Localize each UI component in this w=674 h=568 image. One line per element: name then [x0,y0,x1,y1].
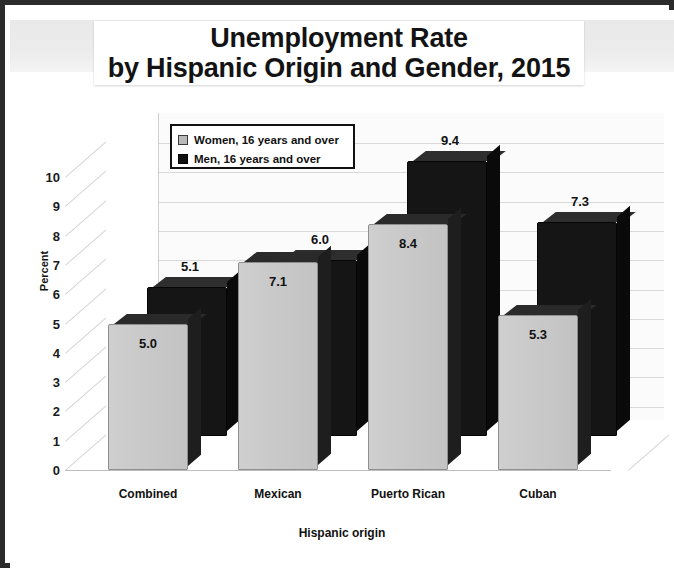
y-tick-10: 10 [30,171,60,184]
x-tick-puerto-rican: Puerto Rican [348,487,468,501]
value-label-men-2: 9.4 [403,133,497,148]
depth-gridline [65,259,106,295]
legend-item-men[interactable]: Men, 16 years and over [178,149,347,168]
depth-gridline [65,288,106,324]
depth-gridline [65,317,106,353]
x-tick-combined: Combined [88,487,208,501]
legend-swatch-women-icon [178,135,188,145]
value-label-women-3: 5.3 [498,327,578,342]
bar-women-mexican[interactable] [238,262,318,470]
y-tick-0: 0 [30,464,60,477]
x-tick-mexican: Mexican [218,487,338,501]
y-tick-1: 1 [30,435,60,448]
depth-gridline [65,171,106,207]
value-label-men-0: 5.1 [143,259,237,274]
y-axis-title: Percent [38,231,50,311]
y-tick-4: 4 [30,347,60,360]
x-axis-line [65,470,611,471]
chart-title-line1: Unemployment Rate [210,23,468,53]
legend-label-men: Men, 16 years and over [194,153,321,165]
y-tick-3: 3 [30,376,60,389]
x-tick-cuban: Cuban [478,487,598,501]
value-label-men-3: 7.3 [533,194,627,209]
legend-item-women[interactable]: Women, 16 years and over [178,130,347,149]
value-label-women-2: 8.4 [368,236,448,251]
bar-front-face [368,224,448,470]
bar-front-face [238,262,318,470]
y-tick-5: 5 [30,318,60,331]
plot-area: 109876543210 Percent 5.16.09.47.35.07.18… [10,10,674,568]
y-tick-2: 2 [30,405,60,418]
chart-title-line2: by Hispanic Origin and Gender, 2015 [108,53,571,83]
bar-side-face [188,307,201,465]
value-label-women-1: 7.1 [238,274,318,289]
floor-gridline [628,435,669,471]
depth-gridline [65,347,106,383]
depth-gridline [65,376,106,412]
chart-frame: Unemployment Rate 109876543210 Percent 5… [0,0,674,568]
legend-label-women: Women, 16 years and over [194,134,339,146]
depth-gridline [65,230,106,266]
chart-legend[interactable]: Women, 16 years and over Men, 16 years a… [170,124,355,169]
value-label-men-1: 6.0 [273,232,367,247]
chart-title-box: Unemployment Rate by Hispanic Origin and… [94,21,584,85]
bar-side-face [617,206,630,431]
bar-side-face [578,298,591,465]
y-tick-9: 9 [30,200,60,213]
bar-side-face [448,208,461,465]
bar-women-puerto-rican[interactable] [368,224,448,470]
x-axis-title: Hispanic origin [10,526,674,540]
chart-canvas: Unemployment Rate 109876543210 Percent 5… [10,10,674,568]
bar-side-face [318,246,331,465]
depth-gridline [65,200,106,236]
value-label-women-0: 5.0 [108,336,188,351]
legend-swatch-men-icon [178,154,188,164]
depth-gridline [65,142,106,178]
